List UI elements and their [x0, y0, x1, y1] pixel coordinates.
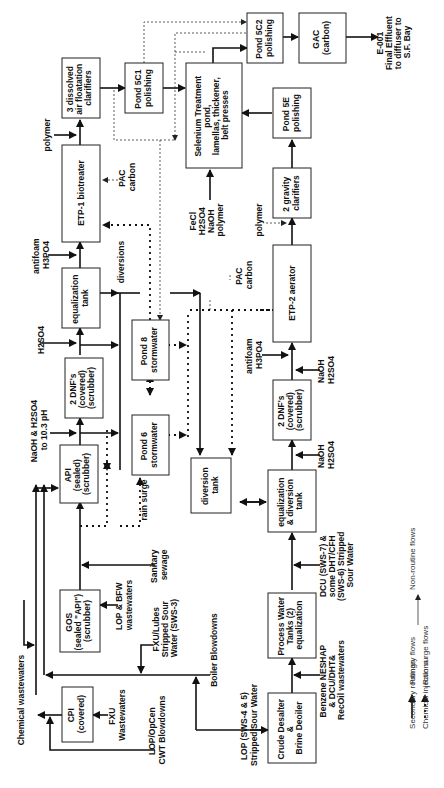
pac-carbon-label-1: PAC carbon [117, 163, 137, 191]
etp1-label: ETP-1 biotreater [76, 159, 86, 225]
benzene-neshap-label: Benzene NESHAP & DCU/DHT& RecOil wastewa… [318, 640, 346, 720]
process-flow-diagram: 3 dissolved air floatation clarifiers Po… [0, 0, 444, 788]
dcu-label: DCU (SWS-7) & some DHT/CFH (SWS-6) Strip… [318, 529, 355, 601]
legend: Primary flows Rain surge flows Secondary… [408, 528, 430, 729]
legend-chemical: Chemical injections [421, 660, 430, 729]
h2so4-label: H2SO4 [36, 326, 46, 354]
naoh-ph-label: NaOH & H2SO4 to 10.3 pH [29, 398, 49, 463]
dnf1-label: 2 DNF's (covered) (scrubber) [68, 367, 96, 409]
lop-sws-label: LOP (SWS-4 & 5) Stripped Sour Water [239, 683, 259, 766]
antifoam-label-1: antifoam H3PO4 [31, 236, 51, 274]
pac-carbon-label-2: PAC carbon [234, 261, 254, 289]
lop-bfw-label: LOP & BFW wastewaters [114, 579, 134, 631]
naoh-h2so4-label-2: NaOH H2SO4 [316, 441, 336, 469]
pond-5c2-label: Pond 5C2 polishing [254, 17, 274, 59]
polymer-label-2: polymer [254, 203, 264, 237]
naoh-h2so4-label-1: NaOH H2SO4 [316, 356, 336, 384]
rain-surge-lines [80, 225, 290, 526]
antifoam-label-2: antifoam H3PO4 [244, 336, 264, 374]
legend-nonroutine: Non-routine flows [408, 528, 417, 590]
pond-5e-label: Pond 5E polishing [281, 94, 301, 132]
fxu-lubes-label: FXU/Lubes Stripped Sour Water (SWS-3) [151, 599, 179, 658]
polymer-label-1: polymer [42, 118, 52, 152]
fxu-wastewaters-label: FXU Wastewaters [107, 689, 127, 741]
gravity-label: 2 gravity clarifiers [281, 174, 301, 211]
lop-opcen-label: LOP/OpCen CWT Blowdowns [147, 695, 167, 764]
chemicals-selenium-label: FeCl H2SO4 NaOH polymer [188, 203, 225, 237]
legend-secondary: Secondary routings [408, 660, 417, 729]
boiler-blowdowns-label: Boiler Blowdowns [209, 613, 219, 687]
effluent-label: E-001 Final Effluent to diffuser to S.F.… [375, 14, 412, 70]
dnf2-label: 2 DNF's (covered) (scrubber) [276, 389, 304, 431]
rain-surge-label: rain surge [139, 479, 149, 520]
pond-5c1-label: Pond 5C1 polishing [133, 67, 153, 109]
diversions-label: diversions [116, 240, 126, 283]
sanitary-sewage-label: Sanitary sewage [149, 547, 169, 583]
etp2-label: ETP-2 aerator [287, 265, 297, 321]
chemical-wastewaters-label: Chemical wastewaters [16, 654, 26, 745]
